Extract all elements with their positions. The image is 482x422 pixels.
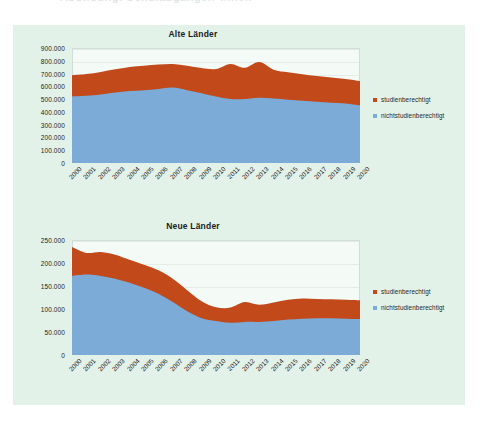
x-axis-tick-label: 2000: [67, 357, 82, 372]
x-axis-tick-label: 2005: [139, 357, 154, 372]
x-axis-tick-label: 2007: [168, 357, 183, 372]
figure-panel: Alte Länder 900.000800.000700.000600.000…: [13, 25, 465, 405]
x-axis-tick-label: 2016: [298, 165, 313, 180]
y-axis-tick-label: 300.000: [41, 121, 65, 128]
legend-item-label: studienberechtigt: [381, 288, 431, 295]
plot-area-alte-laender: [72, 48, 360, 163]
y-axis-tick-label: 200.000: [41, 260, 65, 267]
x-axis-tick-label: 2009: [197, 357, 212, 372]
x-axis-tick-label: 2018: [327, 165, 342, 180]
x-axis-tick-label: 2011: [226, 165, 241, 180]
y-axis-tick-label: 200.000: [41, 134, 65, 141]
chart-title-neue-laender: Neue Länder: [13, 221, 373, 231]
x-axis-tick-label: 2010: [211, 357, 226, 372]
y-axis-tick-label: 800.000: [41, 57, 65, 64]
y-axis-tick-label: 400.000: [41, 108, 65, 115]
x-axis-tick-label: 2009: [197, 165, 212, 180]
x-axis-tick-label: 2003: [111, 165, 126, 180]
x-axis-tick-label: 2018: [327, 357, 342, 372]
x-axis-tick-label: 2001: [82, 165, 97, 180]
x-axis-tick-label: 2020: [355, 165, 370, 180]
x-axis-tick-label: 2015: [283, 165, 298, 180]
legend-neue-laender: studienberechtigtnichtstudienberechtigt: [373, 288, 465, 320]
x-axis-tick-label: 2013: [255, 165, 270, 180]
legend-item: nichtstudienberechtigt: [373, 112, 465, 119]
y-axis-tick-label: 100.000: [41, 306, 65, 313]
x-axis-tick-label: 2017: [312, 357, 327, 372]
plot-area-neue-laender: [72, 240, 360, 355]
x-axis-tick-label: 2007: [168, 165, 183, 180]
x-axis-tick-label: 2008: [183, 357, 198, 372]
x-axis-tick-label: 2014: [269, 357, 284, 372]
chart-title-alte-laender: Alte Länder: [13, 29, 373, 39]
y-axis-tick-label: 150.000: [41, 283, 65, 290]
x-axis-tick-label: 2003: [111, 357, 126, 372]
y-axis-tick-label: 50.000: [45, 329, 65, 336]
y-axis-tick-label: 0: [61, 160, 65, 167]
x-axis-tick-label: 2020: [355, 357, 370, 372]
y-axis-alte-laender: 900.000800.000700.000600.000500.000400.0…: [13, 48, 68, 163]
legend-item: studienberechtigt: [373, 96, 465, 103]
legend-item-label: nichtstudienberechtigt: [381, 304, 444, 311]
x-axis-alte-laender: 2000200120022003200420052006200720082009…: [72, 165, 372, 205]
x-axis-tick-label: 2002: [96, 165, 111, 180]
x-axis-tick-label: 2006: [154, 165, 169, 180]
area-chart-alte-laender: [72, 48, 360, 163]
chart-alte-laender: Alte Länder 900.000800.000700.000600.000…: [13, 29, 465, 215]
y-axis-neue-laender: 250.000200.000150.000100.00050.0000: [13, 240, 68, 355]
x-axis-tick-label: 2016: [298, 357, 313, 372]
x-axis-tick-label: 2014: [269, 165, 284, 180]
chart-neue-laender: Neue Länder 250.000200.000150.000100.000…: [13, 221, 465, 405]
x-axis-tick-label: 2004: [125, 165, 140, 180]
x-axis-tick-label: 2012: [240, 357, 255, 372]
x-axis-tick-label: 2019: [341, 165, 356, 180]
x-axis-neue-laender: 2000200120022003200420052006200720082009…: [72, 357, 372, 397]
x-axis-tick-label: 2015: [283, 357, 298, 372]
x-axis-tick-label: 2000: [67, 165, 82, 180]
x-axis-tick-label: 2011: [226, 357, 241, 372]
x-axis-tick-label: 2005: [139, 165, 154, 180]
y-axis-tick-label: 100.000: [41, 147, 65, 154]
legend-swatch-icon: [373, 306, 377, 310]
legend-item: studienberechtigt: [373, 288, 465, 295]
legend-alte-laender: studienberechtigtnichtstudienberechtigt: [373, 96, 465, 128]
x-axis-tick-label: 2002: [96, 357, 111, 372]
y-axis-tick-label: 250.000: [41, 237, 65, 244]
cut-off-heading-text: Abbildung: Schulabgänger/-innen: [60, 0, 252, 3]
x-axis-tick-label: 2012: [240, 165, 255, 180]
x-axis-tick-label: 2017: [312, 165, 327, 180]
legend-item-label: studienberechtigt: [381, 96, 431, 103]
x-axis-tick-label: 2006: [154, 357, 169, 372]
y-axis-tick-label: 700.000: [41, 70, 65, 77]
legend-swatch-icon: [373, 98, 377, 102]
x-axis-tick-label: 2013: [255, 357, 270, 372]
legend-item: nichtstudienberechtigt: [373, 304, 465, 311]
legend-item-label: nichtstudienberechtigt: [381, 112, 444, 119]
x-axis-tick-label: 2019: [341, 357, 356, 372]
legend-swatch-icon: [373, 114, 377, 118]
legend-swatch-icon: [373, 290, 377, 294]
y-axis-tick-label: 0: [61, 352, 65, 359]
y-axis-tick-label: 900.000: [41, 45, 65, 52]
page-top-cut-strip: Abbildung: Schulabgänger/-innen: [0, 0, 482, 14]
x-axis-tick-label: 2008: [183, 165, 198, 180]
x-axis-tick-label: 2004: [125, 357, 140, 372]
area-chart-neue-laender: [72, 240, 360, 355]
y-axis-tick-label: 600.000: [41, 83, 65, 90]
x-axis-tick-label: 2001: [82, 357, 97, 372]
y-axis-tick-label: 500.000: [41, 96, 65, 103]
x-axis-tick-label: 2010: [211, 165, 226, 180]
